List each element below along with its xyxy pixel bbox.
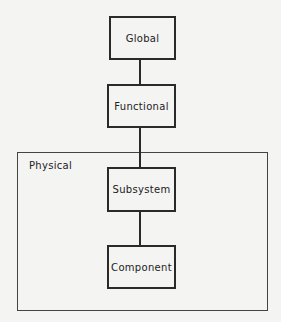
node-global-label: Global bbox=[126, 33, 160, 44]
node-component-label: Component bbox=[111, 262, 172, 273]
edge-global-functional bbox=[139, 58, 141, 85]
node-subsystem-label: Subsystem bbox=[113, 184, 171, 195]
node-component: Component bbox=[107, 245, 176, 289]
node-functional: Functional bbox=[107, 84, 176, 128]
edge-functional-subsystem bbox=[139, 126, 141, 168]
physical-group-label: Physical bbox=[29, 160, 72, 171]
node-subsystem: Subsystem bbox=[107, 167, 176, 212]
edge-subsystem-component bbox=[139, 210, 141, 246]
node-global: Global bbox=[109, 16, 176, 60]
node-functional-label: Functional bbox=[114, 101, 168, 112]
